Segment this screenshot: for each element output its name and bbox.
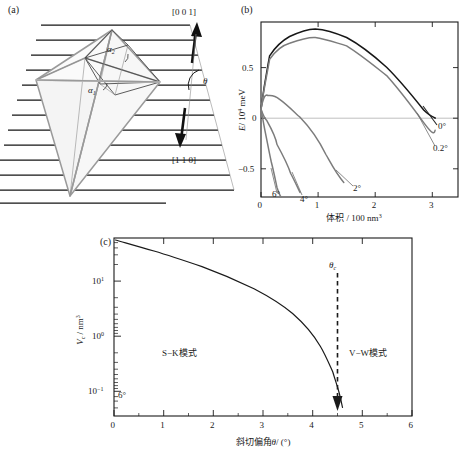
ytick-10e1: 101 (92, 276, 104, 286)
label-4deg: 4° (300, 194, 309, 204)
panel-c-xtick-labels: 0 1 2 3 4 5 6 (111, 420, 414, 430)
ytick-10e-1: 10−1 (88, 386, 103, 396)
label-0deg: 0° (438, 121, 447, 131)
label-6deg: 6° (272, 189, 281, 199)
arrowhead-down (175, 133, 186, 148)
panel-c-ytick-labels: 101 100 10−1 (88, 276, 104, 396)
panel-b-label: (b) (241, 4, 253, 15)
panel-b-xlabel: 体积 / 100 nm3 (326, 212, 381, 223)
svg-text:2: 2 (372, 200, 377, 210)
panel-b-curves (261, 29, 435, 197)
panel-b-leaders (271, 106, 437, 195)
direction-110-label: [1 1 0] (172, 155, 196, 165)
curve-6deg (261, 109, 281, 197)
panel-a-label: (a) (8, 4, 19, 15)
marker-6deg-c: 6° (118, 390, 127, 400)
label-02deg: 0.2° (433, 143, 448, 153)
theta-c-dashed-line (333, 273, 343, 411)
svg-text:6: 6 (409, 420, 414, 430)
svg-text:5: 5 (359, 420, 364, 430)
ytick-10e0: 100 (92, 331, 104, 341)
curve-4deg (261, 109, 300, 192)
svg-text:3: 3 (260, 420, 265, 430)
theta-c-label: θc (329, 260, 336, 271)
panel-c-chart: θc S−K模式 V−W模式 6° 0 1 2 3 4 5 6 101 100 … (72, 225, 472, 455)
panel-b-ylabel: E/ 104 meV (237, 88, 247, 132)
direction-001-label: [0 0 1] (172, 7, 196, 17)
panel-c-axes (114, 238, 412, 416)
svg-text:0.5: 0.5 (242, 63, 254, 73)
panel-b-axes (261, 22, 458, 197)
panel-b-curve-labels: 0° 0.2° 2° 4° 6° (272, 121, 448, 204)
theta-label-a: θ (203, 76, 208, 86)
panel-c-xticks (114, 238, 412, 416)
region-label-vw: V−W模式 (349, 347, 387, 358)
svg-text:4: 4 (309, 420, 314, 430)
curve-critical-volume (116, 240, 343, 408)
panel-c-yticks (114, 243, 121, 408)
figure-root: α2 α1 θ [0 0 1] [1 1 0] (a) (0, 0, 472, 455)
panel-a-diagram: α2 α1 θ [0 0 1] [1 1 0] (0, 0, 236, 222)
svg-text:0: 0 (252, 113, 257, 123)
svg-text:1: 1 (315, 200, 320, 210)
svg-text:0: 0 (111, 420, 116, 430)
panel-c-label: (c) (100, 236, 111, 247)
svg-text:3: 3 (429, 200, 434, 210)
svg-text:−0.5: −0.5 (238, 164, 255, 174)
arrowhead-up (191, 22, 202, 37)
label-2deg: 2° (353, 183, 362, 193)
panel-b-chart: 0 1 2 3 0.5 0 −0.5 0° 0.2° 2° 4° 6° 体积 /… (236, 0, 472, 225)
panel-c-xlabel: 斜切偏角θ/ (°) (236, 436, 291, 447)
arrowhead-theta-c (333, 396, 343, 411)
panel-b-xticks (261, 22, 432, 197)
svg-text:0: 0 (258, 200, 263, 210)
svg-text:1: 1 (160, 420, 165, 430)
region-label-sk: S−K模式 (162, 347, 197, 358)
theta-arc (188, 70, 199, 90)
panel-b-xtick-labels: 0 1 2 3 (258, 200, 434, 210)
svg-text:2: 2 (210, 420, 215, 430)
panel-c-ylabel: Vc / nm3 (75, 315, 86, 345)
